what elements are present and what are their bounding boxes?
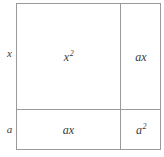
- cell-top-left: x2: [17, 4, 120, 109]
- cell-top-right-base: ax: [135, 51, 146, 63]
- cell-bottom-right-base: a: [136, 124, 142, 136]
- row-label-a: a: [4, 124, 15, 135]
- cell-bottom-right: a2: [121, 110, 161, 150]
- cell-bottom-left: ax: [17, 110, 120, 150]
- area-model-diagram: x a x2 ax ax a2: [0, 0, 164, 157]
- cell-top-left-base: x: [64, 51, 69, 63]
- cell-top-right: ax: [121, 4, 161, 109]
- cell-bottom-left-base: ax: [63, 124, 74, 136]
- row-label-x: x: [4, 48, 15, 59]
- grid-frame: x2 ax ax a2: [16, 3, 161, 150]
